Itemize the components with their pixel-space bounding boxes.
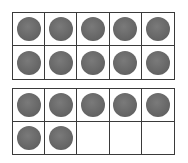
- frame-cell: [142, 46, 174, 79]
- counter-dot-icon: [113, 93, 137, 117]
- frame-cell: [13, 46, 45, 79]
- counter-dot-icon: [49, 51, 73, 75]
- frame-cell: [110, 122, 142, 155]
- frame-cell: [77, 13, 109, 46]
- frame-cell: [45, 122, 77, 155]
- counter-dot-icon: [49, 17, 73, 41]
- counter-dot-icon: [49, 93, 73, 117]
- counter-dot-icon: [49, 126, 73, 150]
- frame-cell: [142, 13, 174, 46]
- counter-dot-icon: [113, 17, 137, 41]
- counter-dot-icon: [146, 51, 170, 75]
- counter-dot-icon: [81, 51, 105, 75]
- frame-cell: [77, 89, 109, 122]
- ten-frame-1: [12, 12, 175, 80]
- frame-cell: [45, 89, 77, 122]
- counter-dot-icon: [146, 17, 170, 41]
- counter-dot-icon: [17, 93, 41, 117]
- frame-cell: [77, 122, 109, 155]
- frame-cell: [13, 89, 45, 122]
- counter-dot-icon: [17, 126, 41, 150]
- frame-cell: [13, 122, 45, 155]
- counter-dot-icon: [113, 51, 137, 75]
- counter-dot-icon: [146, 93, 170, 117]
- frame-cell: [110, 13, 142, 46]
- frame-cell: [45, 13, 77, 46]
- counter-dot-icon: [81, 93, 105, 117]
- frame-cell: [142, 89, 174, 122]
- frame-cell: [110, 46, 142, 79]
- counter-dot-icon: [17, 51, 41, 75]
- ten-frame-2: [12, 88, 175, 155]
- frame-cell: [110, 89, 142, 122]
- frame-cell: [77, 46, 109, 79]
- frame-cell: [45, 46, 77, 79]
- counter-dot-icon: [17, 17, 41, 41]
- frame-cell: [13, 13, 45, 46]
- counter-dot-icon: [81, 17, 105, 41]
- frame-cell: [142, 122, 174, 155]
